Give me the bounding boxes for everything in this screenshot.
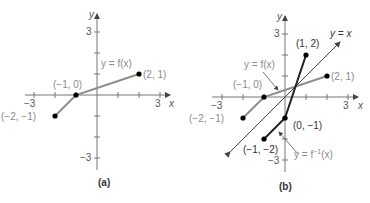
point-label: (2, 1) [143,69,166,80]
point-label: (−1, −2) [243,144,278,155]
caption-a: (a) [98,177,110,188]
point-label: (−1, 0) [233,79,262,90]
yx-label: y = x [329,28,352,39]
point [73,92,78,97]
point-label: (0, −1) [293,120,322,131]
x-axis-label: x [168,98,175,109]
y-axis-label: y [276,11,283,22]
finv-label: y = f−1(x) [294,148,333,160]
figure: y x 3 −3 −3 3 y = f(x) (−2, −1) (−1, 0) … [0,0,370,203]
y-tick-3: 3 [86,26,92,37]
fx-label: y = f(x) [101,58,132,69]
point-label: (−2, −1) [1,111,36,122]
point-label: (1, 2) [296,38,319,49]
x-tick-neg3: −3 [24,98,36,109]
point-label: (−1, 0) [53,79,82,90]
fx-pointer [263,72,278,90]
point-label: (2, 1) [331,71,354,82]
point [136,71,141,76]
caption-b: (b) [279,181,292,192]
y-tick-neg3: −3 [268,155,280,166]
panel-b: y x 3 −3 −3 3 y = x y = f(x) y = f−1(x) … [189,11,364,192]
y-tick-neg3: −3 [80,152,92,163]
x-tick-3: 3 [343,100,349,111]
point-label: (−2, −1) [189,113,224,124]
y-axis-label: y [88,9,95,20]
x-tick-3: 3 [155,98,161,109]
x-tick-neg3: −3 [211,100,223,111]
x-axis-label: x [357,100,364,111]
fx-label: y = f(x) [244,59,275,70]
y-tick-3: 3 [274,28,280,39]
panel-a: y x 3 −3 −3 3 y = f(x) (−2, −1) (−1, 0) … [1,9,175,188]
point [52,113,57,118]
